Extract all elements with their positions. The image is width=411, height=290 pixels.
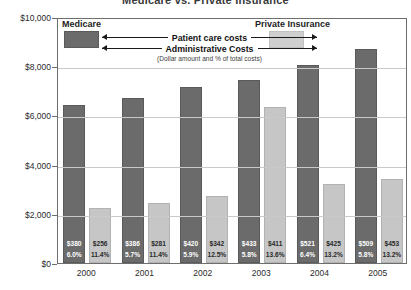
bar-admin-amount: $281	[149, 240, 169, 247]
x-axis-tick-label: 2000	[77, 268, 96, 278]
y-axis-tick-label: $6,000	[25, 111, 51, 121]
bar-admin-percent: 13.6%	[265, 251, 285, 258]
gridline	[58, 68, 406, 69]
arrow-right-icon	[258, 45, 318, 52]
bar-medicare-2004[interactable]: $5216.4%	[297, 65, 319, 263]
bar-admin-percent: 6.0%	[64, 251, 84, 258]
bar-admin-amount: $411	[265, 240, 285, 247]
legend-admin-costs-label: Administrative Costs	[162, 44, 258, 54]
y-axis-tick-label: $10,000	[20, 13, 51, 23]
arrow-left-icon	[102, 34, 168, 41]
bar-admin-amount: $386	[123, 240, 143, 247]
bar-admin-amount: $342	[207, 240, 227, 247]
bar-private-insurance-2002[interactable]: $34212.5%	[206, 196, 228, 263]
bar-admin-percent: 13.2%	[382, 251, 402, 258]
gridline	[58, 117, 406, 118]
y-axis-tick	[52, 264, 57, 265]
x-axis-tick-label: 2004	[310, 268, 329, 278]
legend-note: (Dollar amount and % of total costs)	[102, 55, 317, 62]
x-axis-tick-label: 2002	[193, 268, 212, 278]
legend-medicare-label: Medicare	[62, 19, 101, 29]
bar-admin-amount: $509	[356, 240, 376, 247]
chart-legend: Medicare Private Insurance Patient care …	[62, 19, 362, 67]
bar-medicare-2002[interactable]: $4205.9%	[180, 87, 202, 263]
legend-row-patient-care: Patient care costs	[102, 32, 317, 43]
legend-medicare-swatch	[64, 31, 99, 48]
arrow-right-icon	[251, 34, 317, 41]
arrow-left-icon	[102, 45, 162, 52]
x-axis: 200020012002200320042005	[57, 268, 407, 286]
y-axis-tick-label: $4,000	[25, 161, 51, 171]
bar-admin-percent: 5.8%	[239, 251, 259, 258]
y-axis-tick-label: $0	[42, 259, 51, 269]
bar-admin-percent: 5.9%	[181, 251, 201, 258]
bar-admin-percent: 5.7%	[123, 251, 143, 258]
x-axis-tick-label: 2003	[252, 268, 271, 278]
legend-row-admin-costs: Administrative Costs	[102, 43, 317, 54]
bar-admin-amount: $425	[324, 240, 344, 247]
bar-admin-amount: $433	[239, 240, 259, 247]
chart-title: Medicare vs. Private Insurance	[0, 0, 411, 4]
bar-admin-percent: 13.2%	[324, 251, 344, 258]
chart-container: Medicare vs. Private Insurance $0$2,000$…	[0, 0, 411, 290]
bar-private-insurance-2005[interactable]: $45313.2%	[381, 179, 403, 263]
bar-private-insurance-2003[interactable]: $41113.6%	[264, 107, 286, 263]
bar-medicare-2003[interactable]: $4335.8%	[238, 80, 260, 263]
bar-medicare-2001[interactable]: $3865.7%	[122, 98, 144, 263]
legend-patient-care-label: Patient care costs	[168, 33, 251, 43]
y-axis-tick-label: $8,000	[25, 62, 51, 72]
y-axis-tick-label: $2,000	[25, 210, 51, 220]
gridline	[58, 216, 406, 217]
bar-admin-amount: $420	[181, 240, 201, 247]
bar-admin-percent: 12.5%	[207, 251, 227, 258]
bar-medicare-2000[interactable]: $3806.0%	[63, 105, 85, 263]
bar-admin-percent: 11.4%	[149, 251, 169, 258]
bar-admin-percent: 5.8%	[356, 251, 376, 258]
bar-private-insurance-2004[interactable]: $42513.2%	[323, 184, 345, 263]
gridline	[58, 167, 406, 168]
bar-admin-percent: 6.4%	[298, 251, 318, 258]
bar-private-insurance-2001[interactable]: $28111.4%	[148, 203, 170, 263]
bar-admin-amount: $521	[298, 240, 318, 247]
x-axis-tick-label: 2005	[368, 268, 387, 278]
bar-admin-amount: $256	[90, 240, 110, 247]
y-axis: $0$2,000$4,000$6,000$8,000$10,000	[0, 0, 55, 290]
legend-private-label: Private Insurance	[255, 19, 330, 29]
x-axis-tick-label: 2001	[135, 268, 154, 278]
bar-admin-amount: $453	[382, 240, 402, 247]
bar-medicare-2005[interactable]: $5095.8%	[355, 49, 377, 264]
bar-admin-amount: $380	[64, 240, 84, 247]
bar-admin-percent: 11.4%	[90, 251, 110, 258]
